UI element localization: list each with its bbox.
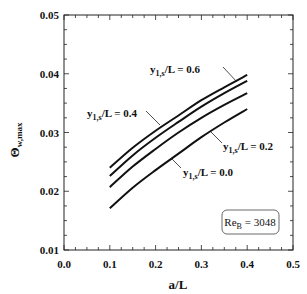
y-tick-label: 0.01 (40, 244, 59, 256)
svg-text:y1,s/L = 0.6: y1,s/L = 0.6 (150, 63, 200, 78)
curve-label-0.0: y1,s/L = 0.0 (171, 158, 233, 181)
leader-line (146, 111, 160, 125)
x-tick-label: 0.4 (240, 258, 254, 270)
leader-line (223, 67, 237, 82)
svg-text:y1,s/L = 0.2: y1,s/L = 0.2 (223, 140, 273, 155)
reynolds-annotation: ReB = 3048 (222, 210, 279, 234)
x-tick-label: 0.3 (195, 258, 209, 270)
curve-label-0.6: y1,s/L = 0.6 (150, 63, 237, 82)
y-tick-label: 0.03 (40, 127, 60, 139)
leader-line (211, 132, 222, 143)
curve-label-0.2: y1,s/L = 0.2 (211, 132, 273, 155)
y-axis-title: Θw,max (7, 122, 24, 157)
curve-y1,s/L = 0.4 (110, 81, 247, 176)
leader-line (171, 158, 181, 168)
x-tick-labels: 0.00.10.20.30.40.5 (57, 258, 300, 270)
line-chart: 0.00.10.20.30.40.5 0.010.020.030.040.05 … (0, 0, 307, 294)
svg-text:y1,s/L = 0.4: y1,s/L = 0.4 (87, 107, 137, 122)
y-tick-label: 0.05 (40, 9, 60, 21)
x-tick-label: 0.1 (103, 258, 117, 270)
x-tick-label: 0.0 (57, 258, 71, 270)
y-tick-labels: 0.010.020.030.040.05 (40, 9, 60, 256)
x-axis-title: a/L (169, 277, 188, 292)
x-tick-label: 0.2 (149, 258, 163, 270)
y-tick-label: 0.02 (40, 185, 60, 197)
y-tick-label: 0.04 (40, 68, 60, 80)
x-tick-label: 0.5 (286, 258, 300, 270)
svg-text:y1,s/L = 0.0: y1,s/L = 0.0 (183, 166, 233, 181)
curve-label-0.4: y1,s/L = 0.4 (87, 107, 160, 125)
